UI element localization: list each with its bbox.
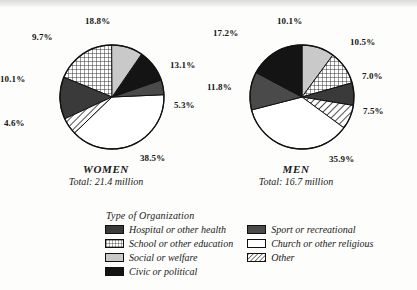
legend-swatch-sport-icon xyxy=(247,225,266,234)
women-label-church: 38.5% xyxy=(140,153,165,163)
women-label-civic: 10.1% xyxy=(0,74,25,84)
women-title: WOMEN xyxy=(2,163,210,175)
women-total: Total: 21.4 million xyxy=(2,176,210,187)
legend-swatch-school-icon xyxy=(105,239,124,248)
legend-label-church: Church or other religious xyxy=(271,238,373,249)
legend-item-social[interactable]: Social or welfare xyxy=(105,251,233,264)
men-label-hospital: 7.0% xyxy=(362,71,383,81)
women-label-social: 9.7% xyxy=(32,32,53,42)
legend-item-sport[interactable]: Sport or recreational xyxy=(247,223,373,236)
men-label-social: 10.1% xyxy=(277,16,302,26)
diagonal-hatch-pattern-icon xyxy=(248,254,265,261)
legend-item-church[interactable]: Church or other religious xyxy=(247,237,373,250)
legend: Type of Organization Hospital or other h… xyxy=(105,210,405,288)
men-total: Total: 16.7 million xyxy=(192,176,400,187)
legend-swatch-civic-icon xyxy=(105,267,124,276)
legend-swatch-hospital-icon xyxy=(105,225,124,234)
pie-chart-figure: 18.8% 13.1% 5.3% 38.5% 4.6% 10.1% 9.7% W… xyxy=(0,0,417,290)
legend-column-left: Hospital or other health School or other… xyxy=(105,223,233,278)
legend-column-right: Sport or recreational Church or other re… xyxy=(247,223,373,278)
women-caption: WOMEN Total: 21.4 million xyxy=(2,163,210,187)
legend-label-sport: Sport or recreational xyxy=(271,224,355,235)
legend-item-hospital[interactable]: Hospital or other health xyxy=(105,223,233,236)
men-pie-chart: 10.1% 10.5% 7.0% 7.5% 35.9% 11.8% 17.2% … xyxy=(207,8,415,208)
men-label-civic: 17.2% xyxy=(213,28,238,38)
women-label-hospital: 13.1% xyxy=(170,60,195,70)
men-title: MEN xyxy=(192,163,400,175)
legend-label-civic: Civic or political xyxy=(129,266,197,277)
legend-swatch-church-icon xyxy=(247,239,266,248)
legend-label-school: School or other education xyxy=(129,238,233,249)
women-label-school: 18.8% xyxy=(85,16,110,26)
legend-item-civic[interactable]: Civic or political xyxy=(105,265,233,278)
legend-label-hospital: Hospital or other health xyxy=(129,224,226,235)
legend-swatch-social-icon xyxy=(105,253,124,262)
men-label-school: 10.5% xyxy=(350,37,375,47)
legend-swatch-other-icon xyxy=(247,253,266,262)
legend-label-social: Social or welfare xyxy=(129,252,198,263)
women-label-sport: 4.6% xyxy=(4,118,25,128)
women-label-other: 5.3% xyxy=(174,100,195,110)
women-pie-chart: 18.8% 13.1% 5.3% 38.5% 4.6% 10.1% 9.7% W… xyxy=(2,8,210,208)
men-label-other: 7.5% xyxy=(363,106,384,116)
legend-item-school[interactable]: School or other education xyxy=(105,237,233,250)
men-caption: MEN Total: 16.7 million xyxy=(192,163,400,187)
legend-item-other[interactable]: Other xyxy=(247,251,373,264)
legend-title: Type of Organization xyxy=(106,210,405,221)
grid-pattern-icon xyxy=(106,240,123,247)
men-label-sport: 11.8% xyxy=(207,82,232,92)
legend-label-other: Other xyxy=(271,252,294,263)
